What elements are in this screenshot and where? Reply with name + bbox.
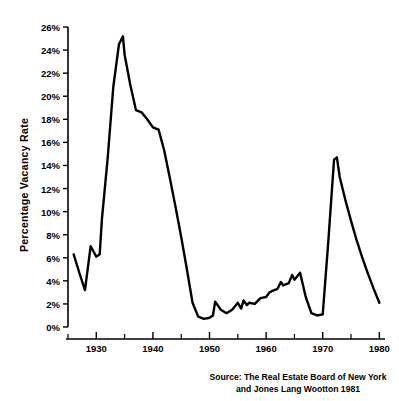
- y-tick-label: 6%: [18, 252, 60, 263]
- x-tick-label: 1960: [256, 343, 277, 354]
- y-tick-label: 2%: [18, 298, 60, 309]
- y-tick-label: 0%: [18, 322, 60, 333]
- y-tick-label: 8%: [18, 229, 60, 240]
- y-tick-label: 14%: [18, 160, 60, 171]
- source-note-line-1: Source: The Real Estate Board of New Yor…: [198, 372, 398, 384]
- x-tick-label: 1980: [369, 343, 390, 354]
- y-tick-label: 10%: [18, 206, 60, 217]
- line-chart-plot: [0, 0, 399, 401]
- x-tick-label: 1950: [199, 343, 220, 354]
- x-tick-label: 1940: [142, 343, 163, 354]
- y-tick-label: 26%: [18, 22, 60, 33]
- y-tick-label: 12%: [18, 183, 60, 194]
- chart-figure: Percentage Vacancy Rate Source: The Real…: [0, 0, 399, 401]
- y-tick-label: 20%: [18, 91, 60, 102]
- y-tick-label: 18%: [18, 114, 60, 125]
- x-tick-label: 1970: [312, 343, 333, 354]
- source-note-line-2: and Jones Lang Wootton 1981: [198, 384, 398, 396]
- y-tick-label: 16%: [18, 137, 60, 148]
- source-note: Source: The Real Estate Board of New Yor…: [198, 372, 398, 395]
- y-tick-label: 22%: [18, 68, 60, 79]
- x-tick-label: 1930: [86, 343, 107, 354]
- y-tick-label: 4%: [18, 275, 60, 286]
- data-line-percentage-vacancy-rate: [74, 36, 380, 319]
- y-tick-label: 24%: [18, 45, 60, 56]
